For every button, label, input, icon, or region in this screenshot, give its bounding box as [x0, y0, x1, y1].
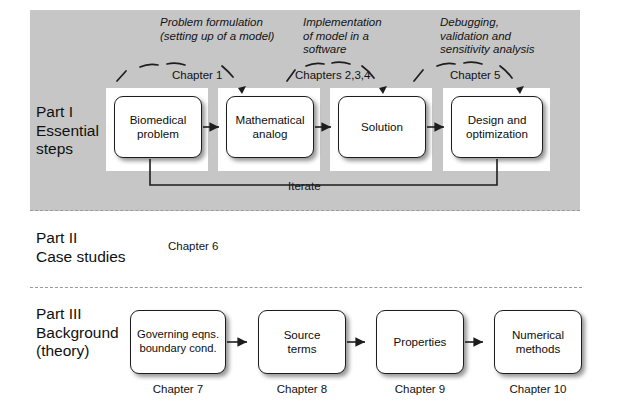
step-box-solution[interactable]: Solution: [338, 96, 426, 158]
part-2-chapter-label: Chapter 6: [168, 240, 219, 252]
chapter-caption-10: Chapter 10: [494, 383, 582, 395]
annotation-debugging: Debugging, validation and sensitivity an…: [440, 16, 535, 57]
part-2-label: Part II Case studies: [36, 229, 126, 266]
chapter-caption-8: Chapter 8: [258, 383, 346, 395]
step-box-design-and-optimization[interactable]: Design and optimization: [451, 96, 543, 158]
part-2-bottom-dashed-separator: [30, 287, 582, 288]
background-box-numerical-methods[interactable]: Numerical methods: [494, 310, 582, 374]
chapter-caption-9: Chapter 9: [376, 383, 464, 395]
background-box-source-terms[interactable]: Source terms: [258, 310, 346, 374]
step-box-biomedical-problem[interactable]: Biomedical problem: [114, 96, 202, 158]
chapter-caption-7: Chapter 7: [130, 383, 226, 395]
part-1-bottom-dashed-separator: [30, 210, 580, 211]
part-3-label: Part III Background (theory): [36, 305, 119, 361]
chapter-tag-2: Chapters 2,3,4: [295, 69, 370, 81]
iterate-label: Iterate: [288, 180, 321, 192]
chapter-tag-3: Chapter 5: [450, 69, 501, 81]
figure-canvas: Part I Essential steps Problem formulati…: [0, 0, 617, 409]
annotation-problem-formulation: Problem formulation (setting up of a mod…: [160, 16, 274, 43]
chapter-tag-1: Chapter 1: [172, 69, 223, 81]
step-box-mathematical-analog[interactable]: Mathematical analog: [226, 96, 314, 158]
annotation-implementation: Implementation of model in a software: [303, 16, 382, 57]
background-box-properties[interactable]: Properties: [376, 310, 464, 374]
background-box-governing-equations[interactable]: Governing eqns. boundary cond.: [130, 310, 226, 374]
part-1-label: Part I Essential steps: [36, 103, 99, 159]
